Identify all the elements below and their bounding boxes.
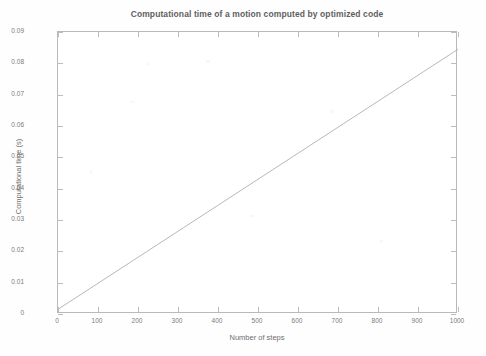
- figure-canvas: Computational time of a motion computed …: [0, 0, 486, 356]
- y-tick-label-8: 0.08: [0, 58, 24, 65]
- y-tick-right-7: [451, 95, 456, 96]
- y-tick-right-4: [451, 189, 456, 190]
- x-tick-label-9: 900: [397, 317, 437, 324]
- y-tick-right-3: [451, 220, 456, 221]
- x-tick-10: [458, 307, 459, 312]
- x-tick-label-10: 1000: [437, 317, 477, 324]
- y-tick-0: [58, 314, 63, 315]
- x-tick-label-2: 200: [117, 317, 157, 324]
- data-series-line: [58, 49, 458, 309]
- x-tick-label-5: 500: [237, 317, 277, 324]
- y-tick-right-0: [451, 314, 456, 315]
- x-tick-8: [378, 307, 379, 312]
- x-tick-top-7: [338, 32, 339, 37]
- y-tick-label-0: 0: [0, 309, 24, 316]
- x-tick-top-1: [98, 32, 99, 37]
- plot-area: [57, 31, 457, 313]
- y-tick-right-5: [451, 157, 456, 158]
- x-tick-top-6: [298, 32, 299, 37]
- x-tick-9: [418, 307, 419, 312]
- x-tick-3: [178, 307, 179, 312]
- chart-title: Computational time of a motion computed …: [57, 9, 457, 19]
- y-tick-4: [58, 189, 63, 190]
- x-tick-top-10: [458, 32, 459, 37]
- x-tick-label-8: 800: [357, 317, 397, 324]
- y-tick-right-2: [451, 251, 456, 252]
- y-tick-1: [58, 283, 63, 284]
- x-tick-top-8: [378, 32, 379, 37]
- y-tick-label-9: 0.09: [0, 27, 24, 34]
- y-tick-5: [58, 157, 63, 158]
- x-tick-label-4: 400: [197, 317, 237, 324]
- x-tick-2: [138, 307, 139, 312]
- x-tick-0: [58, 307, 59, 312]
- x-tick-label-1: 100: [77, 317, 117, 324]
- x-tick-1: [98, 307, 99, 312]
- x-tick-label-3: 300: [157, 317, 197, 324]
- y-tick-right-6: [451, 126, 456, 127]
- y-tick-7: [58, 95, 63, 96]
- x-tick-label-0: 0: [37, 317, 77, 324]
- x-tick-7: [338, 307, 339, 312]
- x-tick-label-7: 700: [317, 317, 357, 324]
- x-axis-label: Number of steps: [57, 333, 457, 342]
- x-tick-6: [298, 307, 299, 312]
- y-tick-right-8: [451, 63, 456, 64]
- x-tick-top-2: [138, 32, 139, 37]
- y-tick-2: [58, 251, 63, 252]
- y-tick-6: [58, 126, 63, 127]
- x-tick-top-4: [218, 32, 219, 37]
- x-tick-5: [258, 307, 259, 312]
- data-line-svg: [58, 32, 458, 314]
- x-tick-top-3: [178, 32, 179, 37]
- x-tick-top-9: [418, 32, 419, 37]
- x-tick-top-0: [58, 32, 59, 37]
- y-tick-right-1: [451, 283, 456, 284]
- y-tick-right-9: [451, 32, 456, 33]
- x-tick-top-5: [258, 32, 259, 37]
- y-tick-3: [58, 220, 63, 221]
- y-axis-label: Computational time (s): [14, 97, 23, 257]
- y-tick-label-1: 0.01: [0, 278, 24, 285]
- x-tick-label-6: 600: [277, 317, 317, 324]
- x-tick-4: [218, 307, 219, 312]
- y-tick-8: [58, 63, 63, 64]
